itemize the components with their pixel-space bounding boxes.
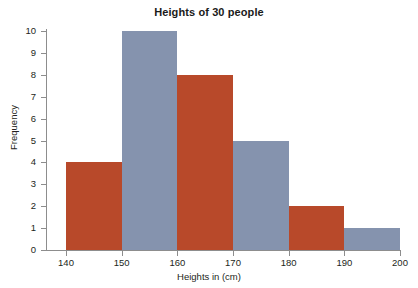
y-tick-mark [41, 250, 46, 251]
plot-area [46, 25, 406, 255]
y-tick-label: 4 [12, 157, 36, 167]
y-tick-mark [41, 206, 46, 207]
x-axis-title: Heights in (cm) [0, 271, 418, 282]
x-tick-mark [177, 251, 178, 256]
x-tick-label: 170 [213, 258, 253, 268]
y-tick-mark [41, 184, 46, 185]
y-tick-label: 10 [12, 26, 36, 36]
x-tick-mark [289, 251, 290, 256]
bars-layer [46, 25, 406, 255]
x-tick-mark [66, 251, 67, 256]
y-tick-mark [41, 97, 46, 98]
histogram-bar [233, 141, 289, 251]
y-tick-label: 9 [12, 48, 36, 58]
x-tick-mark [122, 251, 123, 256]
y-tick-label: 8 [12, 70, 36, 80]
y-tick-mark [41, 75, 46, 76]
x-tick-label: 150 [102, 258, 142, 268]
histogram-bar [344, 228, 400, 250]
y-tick-label: 2 [12, 201, 36, 211]
histogram-bar [122, 31, 178, 250]
y-tick-mark [41, 162, 46, 163]
y-tick-label: 7 [12, 92, 36, 102]
y-tick-label: 3 [12, 179, 36, 189]
y-tick-label: 0 [12, 245, 36, 255]
histogram-bar [289, 206, 345, 250]
x-tick-mark [344, 251, 345, 256]
y-tick-mark [41, 228, 46, 229]
y-tick-mark [41, 141, 46, 142]
chart-title: Heights of 30 people [0, 6, 418, 18]
y-axis-title: Frequency [8, 93, 19, 163]
x-tick-label: 160 [157, 258, 197, 268]
y-tick-label: 1 [12, 223, 36, 233]
y-tick-label: 5 [12, 136, 36, 146]
y-tick-mark [41, 31, 46, 32]
x-tick-label: 190 [324, 258, 364, 268]
x-tick-mark [400, 251, 401, 256]
x-tick-label: 140 [46, 258, 86, 268]
histogram-bar [66, 162, 122, 250]
x-tick-label: 180 [269, 258, 309, 268]
histogram-bar [177, 75, 233, 250]
y-tick-label: 6 [12, 114, 36, 124]
y-tick-mark [41, 119, 46, 120]
x-tick-mark [233, 251, 234, 256]
x-tick-label: 200 [380, 258, 418, 268]
histogram-chart: Heights of 30 people Frequency 012345678… [0, 0, 418, 288]
y-tick-mark [41, 53, 46, 54]
